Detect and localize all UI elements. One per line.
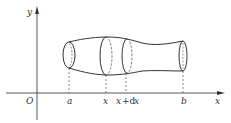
slice-at-x-plus-dx xyxy=(122,39,132,73)
top-profile-curve xyxy=(69,37,183,44)
tick-label-b: b xyxy=(181,96,187,106)
origin-label: O xyxy=(26,96,34,106)
bottom-profile-curve xyxy=(69,68,183,75)
projection-lines xyxy=(69,68,183,93)
x-axis-label: x xyxy=(215,96,220,106)
tick-label-x-plus-dx-x2: x xyxy=(134,96,139,106)
tick-label-a: a xyxy=(67,96,72,106)
slice-at-x xyxy=(100,37,112,75)
tick-label-x: x xyxy=(103,96,108,106)
right-end-disc xyxy=(179,41,187,71)
y-axis-arrow-icon xyxy=(35,6,39,14)
x-axis-arrow-icon xyxy=(217,91,225,95)
y-axis-label: y xyxy=(26,7,33,17)
tick-label-x-plus-dx-x: x xyxy=(116,96,121,106)
solid-outline xyxy=(69,37,183,75)
left-end-disc xyxy=(63,42,75,68)
solid-of-revolution-figure: y O a x x +d x b x xyxy=(0,0,231,123)
